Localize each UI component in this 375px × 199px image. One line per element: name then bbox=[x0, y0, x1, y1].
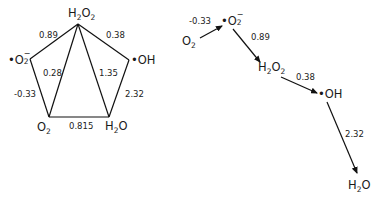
charge-sub: 2 bbox=[237, 19, 242, 27]
pentagon-edge-label-hydroxyl-h2o: 2.32 bbox=[125, 90, 144, 99]
hydroxyl-text: OH bbox=[325, 87, 343, 101]
h2o-o: O bbox=[118, 119, 127, 133]
superoxide-o: O bbox=[15, 53, 24, 67]
o2-sub: 2 bbox=[46, 127, 51, 136]
pentagon-edge-label-superoxide-h2o2: 0.89 bbox=[39, 31, 58, 40]
charge-sub: 2 bbox=[24, 58, 29, 66]
pentagon-node-h2o2: H2O2 bbox=[68, 8, 95, 22]
pentagon-node-h2o: H2O bbox=[105, 121, 128, 135]
h2o2-sub2: 2 bbox=[91, 13, 96, 22]
pentagon-node-o2: O2 bbox=[37, 122, 51, 136]
chain-node-h2o: H2O bbox=[348, 180, 371, 194]
pentagon-edge-label-o2-h2o2: 0.28 bbox=[43, 69, 62, 78]
chain-step-label-1: -0.33 bbox=[189, 17, 211, 26]
h2o2-o: O bbox=[271, 60, 280, 74]
h2o2-o: O bbox=[81, 6, 90, 20]
arrow-o2-to-superoxide bbox=[200, 26, 222, 38]
chain-step-label-4: 2.32 bbox=[345, 130, 364, 139]
h2o-h: H bbox=[105, 119, 114, 133]
o2-o: O bbox=[37, 120, 46, 134]
pentagon-node-superoxide: •O−2 bbox=[8, 55, 30, 67]
pentagon-edge-label-o2-superoxide: -0.33 bbox=[14, 90, 36, 99]
chain-node-hydroxyl: •OH bbox=[318, 89, 343, 101]
o2-sub: 2 bbox=[191, 41, 196, 50]
hydroxyl-text: OH bbox=[138, 53, 156, 67]
chain-node-o2: O2 bbox=[182, 36, 196, 50]
superoxide-charge: −2 bbox=[237, 16, 243, 26]
pentagon-edge-label-h2o2-hydroxyl: 0.38 bbox=[106, 31, 125, 40]
chain-node-h2o2: H2O2 bbox=[258, 62, 285, 76]
chain-step-label-2: 0.89 bbox=[251, 33, 270, 42]
pentagon-edge-label-h2o2-h2o: 1.35 bbox=[99, 69, 118, 78]
chain-node-superoxide: •O−2 bbox=[221, 16, 243, 28]
superoxide-o: O bbox=[228, 14, 237, 28]
diagram-canvas: H2O2 •O−2 •OH O2 H2O 0.89 0.38 0.28 1.35… bbox=[0, 0, 375, 199]
radical-dot: • bbox=[131, 53, 138, 67]
o2-o: O bbox=[182, 34, 191, 48]
radical-dot: • bbox=[318, 87, 325, 101]
h2o2-h: H bbox=[258, 60, 267, 74]
radical-dot: • bbox=[221, 14, 228, 28]
chain-step-label-3: 0.38 bbox=[296, 73, 315, 82]
superoxide-charge: −2 bbox=[24, 55, 30, 65]
pentagon-edge-label-o2-h2o: 0.815 bbox=[69, 122, 93, 131]
h2o-h: H bbox=[348, 178, 357, 192]
h2o-o: O bbox=[361, 178, 370, 192]
h2o2-sub2: 2 bbox=[281, 67, 286, 76]
h2o2-h: H bbox=[68, 6, 77, 20]
pentagon-node-hydroxyl: •OH bbox=[131, 55, 156, 67]
radical-dot: • bbox=[8, 53, 15, 67]
